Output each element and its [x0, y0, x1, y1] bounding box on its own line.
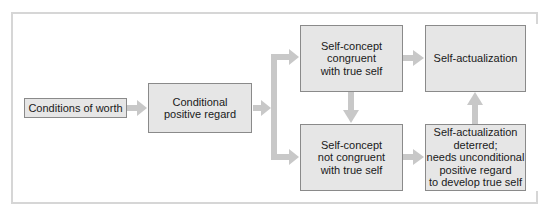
branch-bar	[271, 54, 277, 160]
arrow-regard-to-branch	[253, 100, 271, 116]
node-self-actualization-deterred: Self-actualization deterred; needs uncon…	[425, 124, 526, 191]
arrow-worth-to-regard	[127, 100, 147, 116]
node-self-actualization: Self-actualization	[425, 25, 526, 92]
arrow-congruent-to-actualization	[403, 50, 424, 66]
node-conditions-of-worth: Conditions of worth	[24, 98, 127, 118]
arrow-deterred-to-actualization	[467, 92, 483, 124]
node-conditional-positive-regard: Conditional positive regard	[148, 83, 252, 133]
arrow-congruent-to-not-congruent	[343, 92, 359, 123]
arrow-not-congruent-to-deterred	[403, 149, 424, 165]
node-self-concept-not-congruent: Self-concept not congruent with true sel…	[300, 124, 403, 191]
node-self-concept-congruent: Self-concept congruent with true self	[300, 25, 403, 92]
